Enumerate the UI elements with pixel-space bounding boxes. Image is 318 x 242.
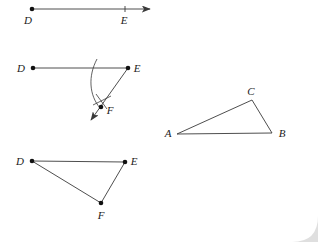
point-dot-e	[126, 66, 131, 71]
geometry-diagram-canvas: D E D E F	[0, 0, 318, 242]
point-label-e: E	[130, 155, 138, 167]
point-label-e: E	[120, 14, 128, 26]
point-dot-f	[99, 105, 104, 110]
point-label-f: F	[97, 209, 105, 221]
point-dot-f	[99, 201, 104, 206]
point-dot-e	[123, 160, 128, 165]
point-dot-d	[30, 159, 35, 164]
point-dot-d	[31, 66, 36, 71]
geometry-figure-card: D E D E F	[0, 0, 318, 242]
point-label-e: E	[133, 62, 141, 74]
point-label-d: D	[23, 14, 32, 26]
point-label-c: C	[247, 85, 255, 97]
point-label-b: B	[279, 127, 286, 139]
point-label-f: F	[106, 104, 114, 116]
point-label-d: D	[15, 155, 24, 167]
point-label-a: A	[164, 127, 172, 139]
point-label-d: D	[16, 62, 25, 74]
point-dot-d	[30, 7, 35, 12]
